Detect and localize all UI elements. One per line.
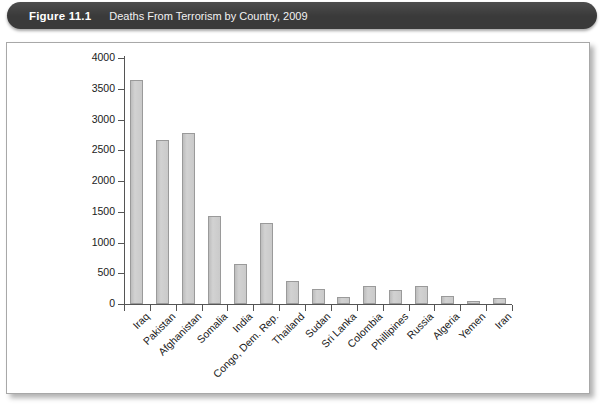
bar [208,216,221,304]
y-axis-line [124,56,125,305]
y-axis-tick [118,150,124,151]
bar [493,298,506,304]
y-axis-tick-label: 2000 [69,174,115,186]
x-axis-line [124,304,512,305]
y-axis-tick [118,243,124,244]
figure-title-bar: Figure 11.1 Deaths From Terrorism by Cou… [7,2,597,29]
y-axis-tick [118,181,124,182]
x-axis-tick [383,305,384,311]
y-axis-tick [118,120,124,121]
bar [389,290,402,304]
y-axis-tick-label: 2500 [69,143,115,155]
bar [130,80,143,304]
x-axis-tick [176,305,177,311]
bar [415,286,428,304]
y-axis-tick-label: 1000 [69,236,115,248]
y-axis-tick-label: 500 [69,266,115,278]
x-axis-tick [357,305,358,311]
bar [156,140,169,304]
x-axis-tick [409,305,410,311]
figure-screenshot: Figure 11.1 Deaths From Terrorism by Cou… [0,0,612,411]
figure-caption: Deaths From Terrorism by Country, 2009 [109,10,307,22]
x-axis-tick [512,305,513,311]
x-axis-tick [150,305,151,311]
y-axis-tick-label: 4000 [69,51,115,63]
figure-number: Figure 11.1 [29,10,91,22]
y-axis-tick-label: 0 [69,297,115,309]
y-axis-tick-label: 3500 [69,82,115,94]
x-axis-tick [227,305,228,311]
x-axis-tick [460,305,461,311]
x-axis-tick [124,305,125,311]
bar [234,264,247,304]
x-axis-tick [253,305,254,311]
bar [312,289,325,304]
figure-panel: 05001000150020002500300035004000 IraqPak… [6,42,590,394]
y-axis-tick [118,89,124,90]
x-axis-tick [202,305,203,311]
y-axis-tick [118,212,124,213]
bar [182,133,195,304]
bar [286,281,299,304]
bar [441,296,454,304]
bar [337,297,350,304]
bar [467,301,480,304]
bar-chart: 05001000150020002500300035004000 IraqPak… [7,43,591,395]
y-axis-tick-label: 1500 [69,205,115,217]
x-axis-tick [305,305,306,311]
bar [260,223,273,304]
x-axis-tick [331,305,332,311]
y-axis-tick-label: 3000 [69,113,115,125]
x-axis-tick [279,305,280,311]
y-axis-tick [118,58,124,59]
y-axis-tick [118,273,124,274]
bar [363,286,376,304]
x-axis-tick [486,305,487,311]
x-axis-tick [434,305,435,311]
